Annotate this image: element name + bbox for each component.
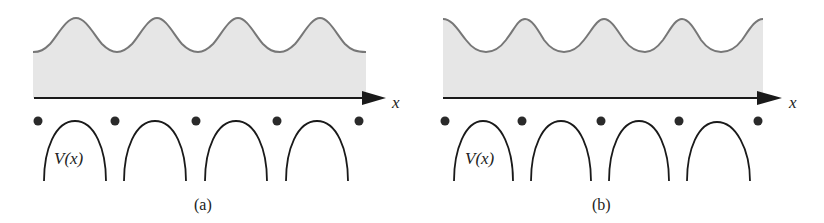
potential-arches-b <box>454 121 750 181</box>
potential-arch <box>124 121 186 181</box>
caption-b: (b) <box>592 196 611 214</box>
ion-dot <box>273 117 282 126</box>
potential-arch <box>286 121 348 181</box>
arrow-head-icon <box>362 91 386 105</box>
arrow-head-icon <box>757 91 782 105</box>
bloch-wave-diagram: x V(x) (a) x <box>0 0 824 223</box>
ion-dot <box>111 117 120 126</box>
potential-arch <box>531 121 591 181</box>
potential-arch <box>609 121 669 181</box>
potential-label-b: V(x) <box>465 149 495 168</box>
panel-b: x V(x) (b) <box>441 19 798 214</box>
potential-arch <box>687 122 750 181</box>
ion-dot <box>192 117 201 126</box>
ion-dot <box>355 117 364 126</box>
axis-label-b: x <box>788 93 797 112</box>
ion-dot <box>34 117 43 126</box>
ion-dot <box>441 117 450 126</box>
ion-dot <box>597 117 606 126</box>
ion-dot <box>675 117 684 126</box>
potential-arches-a <box>44 121 348 181</box>
panel-a: x V(x) (a) <box>33 18 400 214</box>
caption-a: (a) <box>194 196 212 214</box>
wave-fill-b <box>443 19 763 98</box>
potential-label-a: V(x) <box>54 149 84 168</box>
potential-arch <box>205 121 267 181</box>
ion-dot <box>518 117 527 126</box>
ion-dot <box>754 117 763 126</box>
axis-label-a: x <box>391 93 400 112</box>
wave-fill-a <box>33 18 366 98</box>
